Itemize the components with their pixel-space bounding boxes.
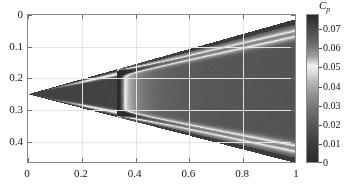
y-tick-label: 0.4 <box>0 136 23 147</box>
colorbar-tick-label: 0 <box>323 158 328 168</box>
colorbar-tick <box>319 144 322 145</box>
colorbar-tick <box>319 48 322 49</box>
y-tick-right <box>291 142 295 143</box>
y-tick <box>28 78 32 79</box>
x-tick <box>136 158 137 162</box>
gridline-vertical <box>189 15 190 162</box>
y-tick-label: 0 <box>0 9 23 20</box>
x-tick <box>243 158 244 162</box>
colorbar-tick-label: 0.05 <box>323 62 341 72</box>
x-tick <box>189 158 190 162</box>
gridline-vertical <box>136 15 137 162</box>
gridline-horizontal <box>28 78 295 79</box>
y-tick <box>28 47 32 48</box>
colorbar-tick-label: 0.03 <box>323 101 341 111</box>
colorbar-tick-label: 0.06 <box>323 43 341 53</box>
y-tick <box>28 142 32 143</box>
colorbar-title: Cp <box>319 0 330 15</box>
x-tick-label: 0.2 <box>61 168 101 179</box>
gridline-vertical <box>243 15 244 162</box>
gridline-horizontal <box>28 47 295 48</box>
y-tick-right <box>291 110 295 111</box>
colorbar-gradient <box>306 14 319 163</box>
colorbar-tick-label: 0.01 <box>323 139 341 149</box>
y-tick-right <box>291 78 295 79</box>
y-tick <box>28 15 32 16</box>
x-tick-top <box>136 15 137 19</box>
x-tick-label: 0 <box>7 168 47 179</box>
gridline-horizontal <box>28 142 295 143</box>
y-tick-label: 0.2 <box>0 72 23 83</box>
colorbar-tick <box>319 87 322 88</box>
colorbar-tick <box>319 29 322 30</box>
pressure-field-heatmap <box>28 15 296 163</box>
colorbar-tick <box>319 67 322 68</box>
plot-area <box>27 14 296 163</box>
x-tick-top <box>82 15 83 19</box>
x-tick-label: 0.6 <box>168 168 208 179</box>
x-tick <box>28 158 29 162</box>
x-tick-label: 0.8 <box>222 168 262 179</box>
gridline-vertical <box>82 15 83 162</box>
figure-contour-plot: 00.20.40.60.81 00.10.20.30.4 Cp 00.010.0… <box>0 0 346 195</box>
x-tick-label: 1 <box>276 168 316 179</box>
y-tick <box>28 110 32 111</box>
gridline-horizontal <box>28 110 295 111</box>
y-tick-right <box>291 15 295 16</box>
x-tick-top <box>189 15 190 19</box>
x-tick <box>82 158 83 162</box>
colorbar-tick-label: 0.04 <box>323 82 341 92</box>
x-tick-top <box>243 15 244 19</box>
colorbar-tick-label: 0.02 <box>323 120 341 130</box>
colorbar-tick <box>319 125 322 126</box>
colorbar <box>306 14 319 163</box>
y-tick-label: 0.1 <box>0 41 23 52</box>
colorbar-tick <box>319 162 322 163</box>
y-tick-right <box>291 47 295 48</box>
x-tick-label: 0.4 <box>115 168 155 179</box>
colorbar-title-subscript: p <box>326 5 330 14</box>
y-tick-label: 0.3 <box>0 104 23 115</box>
colorbar-tick <box>319 106 322 107</box>
colorbar-tick-label: 0.07 <box>323 24 341 34</box>
